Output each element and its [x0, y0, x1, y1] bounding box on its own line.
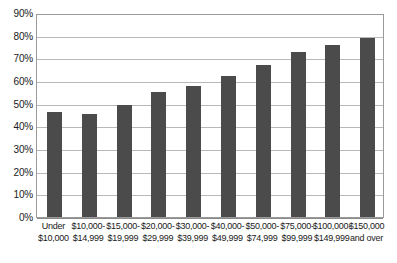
- x-tick-label-line: and over: [345, 233, 389, 245]
- bar: [291, 52, 306, 217]
- x-tick-label: $150,000and over: [345, 221, 389, 244]
- y-tick-label: 10%: [0, 190, 33, 200]
- y-tick-label: 90%: [0, 9, 33, 19]
- y-tick-label: 0%: [0, 213, 33, 223]
- bar: [325, 45, 340, 217]
- bar-chart: 0%10%20%30%40%50%60%70%80%90% Under$10,0…: [0, 0, 397, 263]
- bar: [360, 38, 375, 217]
- plot-area: [36, 14, 384, 218]
- y-tick-label: 20%: [0, 168, 33, 178]
- y-tick-label: 60%: [0, 77, 33, 87]
- y-tick-label: 80%: [0, 32, 33, 42]
- bar: [151, 92, 166, 217]
- y-tick-label: 50%: [0, 100, 33, 110]
- y-tick-label: 30%: [0, 145, 33, 155]
- x-tick-label-line: $150,000: [345, 221, 389, 233]
- bars-group: [37, 15, 383, 217]
- y-tick-label: 40%: [0, 122, 33, 132]
- bar: [82, 114, 97, 217]
- bar: [186, 86, 201, 217]
- axis-baseline: [37, 218, 383, 219]
- y-axis: 0%10%20%30%40%50%60%70%80%90%: [0, 0, 33, 263]
- y-tick-label: 70%: [0, 54, 33, 64]
- bar: [47, 112, 62, 217]
- bar: [256, 65, 271, 217]
- bar: [117, 105, 132, 217]
- bar: [221, 76, 236, 217]
- x-axis: Under$10,000$10,000-$14,999$15,000-$19,9…: [36, 221, 384, 261]
